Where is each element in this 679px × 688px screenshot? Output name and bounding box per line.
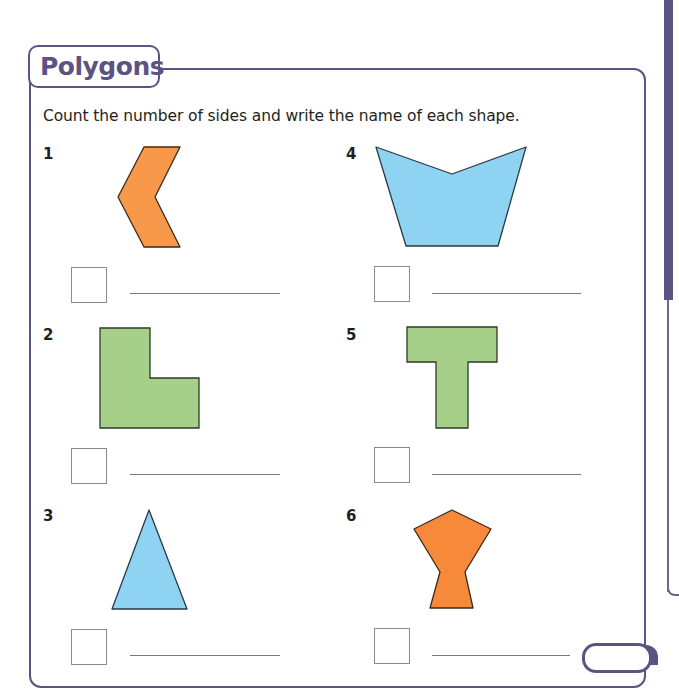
sides-answer-box-3[interactable] (71, 629, 107, 665)
name-answer-line-1[interactable] (130, 293, 280, 294)
name-answer-line-2[interactable] (130, 474, 280, 475)
sides-answer-box-6[interactable] (374, 628, 410, 664)
sides-answer-box-2[interactable] (71, 448, 107, 484)
shape-4-pentagon-icon (376, 147, 526, 246)
sides-answer-box-1[interactable] (71, 267, 107, 303)
shape-5-t-shape-icon (407, 327, 497, 428)
name-answer-line-3[interactable] (130, 655, 280, 656)
shape-2-l-shape-icon (100, 328, 199, 428)
sides-answer-box-5[interactable] (374, 447, 410, 483)
name-answer-line-5[interactable] (432, 474, 581, 475)
name-answer-line-6[interactable] (432, 655, 570, 656)
sides-answer-box-4[interactable] (374, 266, 410, 302)
page-number-tab (582, 643, 652, 673)
shape-6-heptagon-icon (414, 510, 491, 608)
shape-1-chevron-icon (118, 147, 180, 247)
shape-3-triangle-icon (112, 510, 187, 609)
name-answer-line-4[interactable] (432, 293, 581, 294)
